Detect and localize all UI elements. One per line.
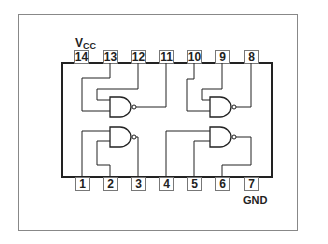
pin-label-13: 13 [104,50,118,64]
pin-label-2: 2 [107,177,114,191]
nand-gate-3 [82,127,138,177]
ic-body [62,63,272,177]
pin-label-14: 14 [75,50,89,64]
pin-label-12: 12 [132,50,146,64]
nand-gate-4 [166,127,251,177]
nand-gate-1 [82,63,166,117]
pin-label-10: 10 [188,50,202,64]
ic-pinout-diagram: 14 13 12 11 10 9 8 1 2 3 4 5 6 7 VCC GND [0,0,328,244]
pin-label-8: 8 [248,50,255,64]
pin-label-3: 3 [135,177,142,191]
pin-label-5: 5 [191,177,198,191]
vcc-label: VCC [75,36,97,51]
nand-gate-2 [187,63,251,117]
pin-label-4: 4 [163,177,170,191]
pin-label-7: 7 [248,177,255,191]
pin-label-6: 6 [219,177,226,191]
pin-label-11: 11 [160,50,173,64]
pin-label-9: 9 [219,50,226,64]
pin-label-1: 1 [79,177,86,191]
gnd-label: GND [243,194,268,206]
